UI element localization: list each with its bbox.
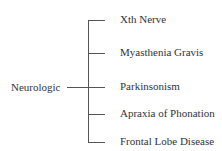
branch-line <box>88 53 105 54</box>
branch-line <box>88 20 105 21</box>
child-label: Xth Nerve <box>120 13 166 25</box>
branch-line <box>88 142 105 143</box>
root-connector <box>67 87 89 88</box>
root-label: Neurologic <box>11 81 60 93</box>
branch-line <box>88 87 105 88</box>
tree-diagram: Neurologic Xth Nerve Myasthenia Gravis P… <box>0 0 222 151</box>
child-label: Parkinsonism <box>120 80 180 92</box>
branch-line <box>88 114 105 115</box>
child-label: Frontal Lobe Disease <box>120 135 214 147</box>
trunk-line <box>88 20 89 143</box>
child-label: Apraxia of Phonation <box>120 107 215 119</box>
child-label: Myasthenia Gravis <box>120 46 203 58</box>
